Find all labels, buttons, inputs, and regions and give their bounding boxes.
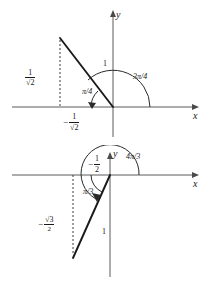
hypotenuse-label-top: 1 xyxy=(103,60,107,68)
y-coordinate-denominator-bottom: 2 xyxy=(44,224,54,233)
y-coordinate-numerator-top: 1 xyxy=(25,69,35,77)
figure-root: y x 1 √2 − 1 √2 3π/4 π/4 1 xyxy=(0,0,209,287)
y-coordinate-denominator-top: √2 xyxy=(25,77,35,87)
y-coordinate-numerator-bottom: √3 xyxy=(44,216,54,224)
x-coordinate-denominator-top: √2 xyxy=(69,122,79,132)
diagram-bottom-canvas xyxy=(0,145,209,287)
x-coordinate-denominator-bottom: 2 xyxy=(94,164,100,174)
reference-angle-label-pi4: π/4 xyxy=(82,88,92,96)
hypotenuse-label-bottom: 1 xyxy=(102,228,106,236)
x-coordinate-numerator-top: 1 xyxy=(69,113,79,121)
terminal-ray-top xyxy=(60,38,113,107)
y-axis-label-top: y xyxy=(116,10,120,20)
reference-angle-label-pi3: π/3 xyxy=(83,188,93,196)
y-axis-label-bottom: y xyxy=(113,149,117,159)
angle-label-4pi3: 4π/3 xyxy=(126,153,140,161)
x-axis-label-top: x xyxy=(193,111,197,121)
y-coordinate-label-top: 1 √2 xyxy=(25,62,35,88)
reference-angle-arrowhead-top xyxy=(88,102,96,109)
x-coordinate-numerator-bottom: 1 xyxy=(94,155,100,163)
angle-label-3pi4: 3π/4 xyxy=(133,73,147,81)
x-axis-label-bottom: x xyxy=(193,179,197,189)
x-coordinate-label-bottom: − 1 2 xyxy=(88,154,100,174)
y-coordinate-label-bottom: − √3 2 xyxy=(38,214,54,233)
x-coordinate-label-top: − 1 √2 xyxy=(63,112,79,132)
